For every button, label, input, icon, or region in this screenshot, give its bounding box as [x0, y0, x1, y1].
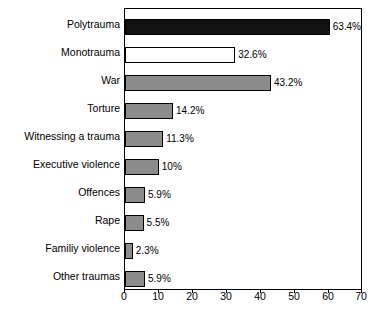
bar-value-polytrauma: 63.4% [333, 22, 361, 32]
category-label-0: Polytrauma [0, 19, 120, 30]
bar-rape [125, 215, 144, 231]
category-label-7: Rape [0, 215, 120, 226]
category-label-4: Witnessing a trauma [0, 131, 120, 142]
bar-value-other-traumas: 5.9% [148, 274, 171, 284]
x-tick-label-0: 0 [109, 291, 139, 302]
bar-row: 2.3% [125, 243, 361, 259]
bar-row: 63.4% [125, 19, 361, 35]
bar-value-familiy-violence: 2.3% [136, 246, 159, 256]
bar-value-monotrauma: 32.6% [238, 50, 266, 60]
x-tick-label-2: 20 [177, 291, 207, 302]
bar-row: 11.3% [125, 131, 361, 147]
bar-other-traumas [125, 271, 145, 287]
category-label-1: Monotrauma [0, 47, 120, 58]
category-label-2: War [0, 75, 120, 86]
bar-familiy-violence [125, 243, 133, 259]
bar-monotrauma [125, 47, 235, 63]
bar-value-executive-violence: 10% [162, 162, 182, 172]
bar-row: 10% [125, 159, 361, 175]
bar-row: 14.2% [125, 103, 361, 119]
bar-polytrauma [125, 19, 330, 35]
x-tick-label-4: 40 [245, 291, 275, 302]
bar-value-rape: 5.5% [147, 218, 170, 228]
bar-row: 5.9% [125, 187, 361, 203]
x-tick-label-5: 50 [279, 291, 309, 302]
bar-value-offences: 5.9% [148, 190, 171, 200]
bar-row: 43.2% [125, 75, 361, 91]
bar-executive-violence [125, 159, 159, 175]
category-label-6: Offences [0, 187, 120, 198]
category-label-8: Familiy violence [0, 243, 120, 254]
x-tick-label-3: 30 [211, 291, 241, 302]
category-label-5: Executive violence [0, 159, 120, 170]
bar-value-torture: 14.2% [176, 106, 204, 116]
bar-torture [125, 103, 173, 119]
category-label-3: Torture [0, 103, 120, 114]
bar-row: 5.5% [125, 215, 361, 231]
bar-chart: Polytrauma Monotrauma War Torture Witnes… [0, 0, 391, 322]
x-tick-label-1: 10 [143, 291, 173, 302]
bar-row: 32.6% [125, 47, 361, 63]
x-tick-label-6: 60 [313, 291, 343, 302]
bar-witnessing-a-trauma [125, 131, 163, 147]
plot-area: 63.4% 32.6% 43.2% 14.2% 11.3% 10% [124, 8, 362, 290]
x-tick-label-7: 70 [346, 291, 376, 302]
category-label-9: Other traumas [0, 271, 120, 282]
bar-war [125, 75, 271, 91]
bar-offences [125, 187, 145, 203]
bar-value-witnessing-a-trauma: 11.3% [166, 134, 194, 144]
bar-value-war: 43.2% [274, 78, 302, 88]
bar-row: 5.9% [125, 271, 361, 287]
bars-container: 63.4% 32.6% 43.2% 14.2% 11.3% 10% [125, 9, 361, 289]
